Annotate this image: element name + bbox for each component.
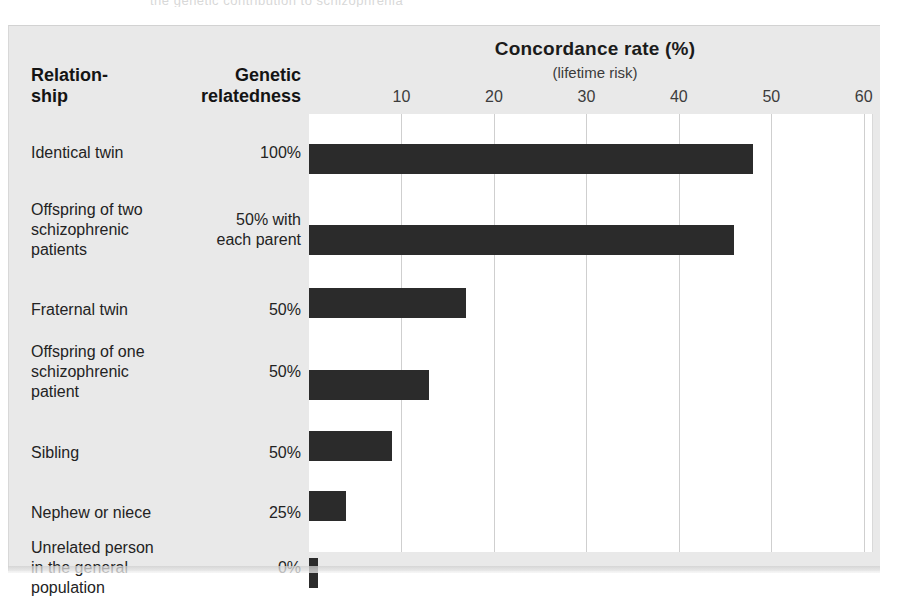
chart-row: Offspring of twoschizophrenicpatients50%… [9,198,881,260]
bar [309,491,346,521]
page-top-text-sliver: the genetic contribution to schizophreni… [150,0,570,7]
x-axis-tick-60: 60 [855,88,873,106]
row-label-line: population [31,578,183,598]
chart-title: Concordance rate (%) [309,38,881,60]
row-genetic-relatedness: 50% [159,362,301,382]
chart-row: Fraternal twin50% [9,278,881,340]
x-axis-tick-20: 20 [485,88,503,106]
row-genetic-relatedness: 50% witheach parent [159,210,301,250]
bar [309,288,466,318]
bar [309,225,734,255]
bar [309,431,392,461]
row-relatedness-line: 50% with [159,210,301,230]
row-relatedness-line: 100% [159,143,301,163]
chart-figure: Concordance rate (%) (lifetime risk) Rel… [8,25,880,571]
row-label-line: patient [31,382,183,402]
row-relatedness-line: 50% [159,362,301,382]
row-relatedness-line: 50% [159,300,301,320]
page-bottom-shadow [8,566,880,573]
row-genetic-relatedness: 50% [159,443,301,463]
x-axis-tick-40: 40 [670,88,688,106]
column-header-relatedness-line1: Genetic [159,65,301,86]
column-header-genetic-relatedness: Genetic relatedness [159,65,301,107]
row-label-line: Unrelated person [31,538,183,558]
chart-subtitle: (lifetime risk) [309,64,881,81]
chart-row: Nephew or niece25% [9,481,881,543]
chart-row: Offspring of oneschizophrenicpatient50% [9,340,881,402]
x-axis-tick-50: 50 [762,88,780,106]
row-genetic-relatedness: 25% [159,503,301,523]
x-axis-tick-30: 30 [577,88,595,106]
row-relatedness-line: 50% [159,443,301,463]
chart-row: Identical twin100% [9,121,881,183]
chart-row: Sibling50% [9,421,881,483]
bar [309,558,318,588]
row-relatedness-line: each parent [159,230,301,250]
x-axis-tick-10: 10 [393,88,411,106]
column-header-relatedness-line2: relatedness [159,86,301,107]
bar [309,144,753,174]
row-genetic-relatedness: 50% [159,300,301,320]
bar [309,370,429,400]
row-genetic-relatedness: 100% [159,143,301,163]
row-relatedness-line: 25% [159,503,301,523]
row-label-line: Offspring of one [31,342,183,362]
